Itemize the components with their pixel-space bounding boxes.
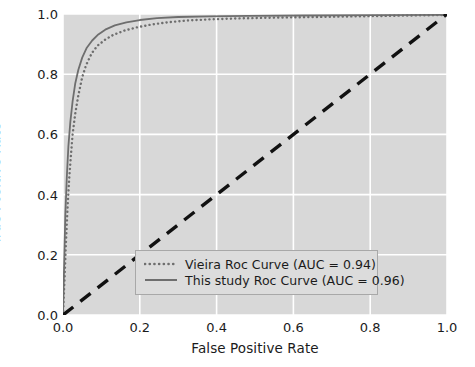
x-tick-label: 0.2 — [118, 320, 162, 335]
y-tick-label: 0.2 — [24, 247, 58, 262]
y-tick-label: 0.4 — [24, 187, 58, 202]
x-tick-label: 0.0 — [41, 320, 85, 335]
y-tick-label: 1.0 — [24, 7, 58, 22]
legend-entry: Vieira Roc Curve (AUC = 0.94) — [144, 256, 369, 272]
legend-label: This study Roc Curve (AUC = 0.96) — [185, 273, 405, 288]
y-tick-label: 0.8 — [24, 67, 58, 82]
x-tick-label: 0.8 — [348, 320, 392, 335]
solid-line-icon — [144, 274, 178, 286]
y-axis-tick-labels: 1.00.80.60.40.20.0 — [20, 0, 58, 367]
chart-legend: Vieira Roc Curve (AUC = 0.94)This study … — [135, 250, 378, 295]
y-axis-title-text: True Positive Rate — [0, 122, 3, 244]
x-tick-label: 0.4 — [195, 320, 239, 335]
x-axis-title: False Positive Rate — [63, 340, 447, 356]
y-tick-label: 0.6 — [24, 127, 58, 142]
dotted-line-icon — [144, 258, 178, 270]
legend-entry: This study Roc Curve (AUC = 0.96) — [144, 272, 369, 288]
x-axis-tick-labels: 0.00.20.40.60.81.0 — [0, 320, 475, 340]
x-tick-label: 0.6 — [271, 320, 315, 335]
roc-curve-figure: True Positive Rate 1.00.80.60.40.20.0 0.… — [0, 0, 475, 367]
legend-label: Vieira Roc Curve (AUC = 0.94) — [185, 257, 376, 272]
x-tick-label: 1.0 — [425, 320, 469, 335]
